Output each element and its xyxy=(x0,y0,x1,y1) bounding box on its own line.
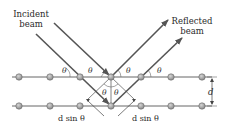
theta-label-4: θ xyxy=(157,66,162,75)
dsin-dim-left xyxy=(88,101,104,116)
atom xyxy=(47,103,53,109)
theta-label-6: θ xyxy=(114,88,119,97)
theta-label-5: θ xyxy=(102,88,107,97)
path-diff-label-left: d sin θ xyxy=(58,114,85,123)
reflected-beam-label-2: beam xyxy=(180,26,204,36)
path-diff-label-right: d sin θ xyxy=(132,114,159,123)
theta-arc-1 xyxy=(66,68,70,77)
atom xyxy=(138,74,144,80)
bragg-diagram: Incident beam Reflected beam θ θ θ θ θ θ… xyxy=(0,0,230,128)
theta-label-2: θ xyxy=(88,66,93,75)
atom xyxy=(199,103,205,109)
atom xyxy=(77,74,83,80)
atom xyxy=(168,103,174,109)
atom xyxy=(108,103,114,109)
incident-beam-label: Incident xyxy=(13,9,49,19)
atom xyxy=(108,74,114,80)
theta-arc-5 xyxy=(104,84,111,87)
atom xyxy=(168,74,174,80)
atom xyxy=(138,103,144,109)
reflected-beam-label: Reflected xyxy=(172,16,213,26)
reflected-beam-lower xyxy=(111,38,182,106)
d-spacing-label: d xyxy=(208,87,214,97)
theta-arc-2 xyxy=(101,70,104,77)
incident-beam-label-2: beam xyxy=(19,19,43,29)
atom xyxy=(16,74,22,80)
atom xyxy=(47,74,53,80)
atom xyxy=(16,103,22,109)
incident-beam-lower xyxy=(36,34,109,104)
atom xyxy=(199,74,205,80)
atom xyxy=(77,103,83,109)
theta-arc-3 xyxy=(118,70,121,77)
theta-arc-6 xyxy=(111,84,118,87)
theta-label-3: θ xyxy=(126,66,131,75)
theta-label-1: θ xyxy=(62,66,67,75)
